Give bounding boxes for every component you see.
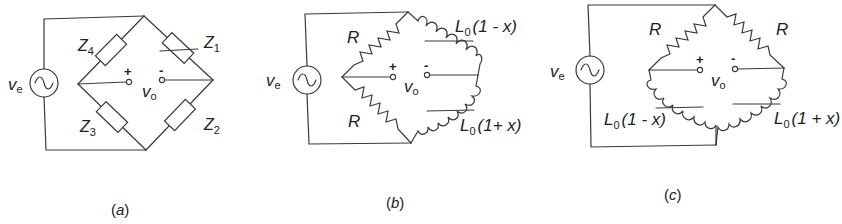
resistor-r-right xyxy=(715,5,784,68)
inductor-lower-right xyxy=(716,68,786,145)
plus-sign: + xyxy=(124,64,132,79)
caption-b: (b) xyxy=(386,194,404,211)
impedance-z4 xyxy=(95,34,126,65)
label-l-right: L0(1 + x) xyxy=(774,109,840,130)
source-wire-top xyxy=(44,16,144,69)
plus-sign: + xyxy=(696,52,704,67)
output-label: vo xyxy=(142,82,157,102)
label-l-left: L0(1 - x) xyxy=(604,110,666,131)
label-z4: Z4 xyxy=(77,37,94,57)
core-line-left xyxy=(656,107,703,108)
minus-sign: - xyxy=(731,51,735,66)
impedance-z2 xyxy=(165,99,196,130)
label-l-lower: L0(1+ x) xyxy=(460,116,522,137)
output-terminal-plus xyxy=(390,74,395,79)
label-r-left: R xyxy=(649,20,661,39)
label-z3: Z3 xyxy=(79,118,96,138)
minus-sign: - xyxy=(159,63,163,78)
label-r-lower: R xyxy=(348,112,360,131)
output-terminal-minus xyxy=(159,77,164,82)
panel-a: + - ve vo Z4 Z1 Z3 Z2 (a) xyxy=(8,16,220,218)
label-z2: Z2 xyxy=(203,116,220,136)
output-terminal-minus xyxy=(732,66,737,71)
output-terminal-minus xyxy=(424,72,429,77)
panel-b: + - ve vo R R L0(1 - x) L0(1+ x) (b) xyxy=(266,12,522,211)
ac-source-icon xyxy=(293,66,321,94)
plus-sign: + xyxy=(389,59,397,74)
output-label: vo xyxy=(404,77,419,97)
output-label: vo xyxy=(711,71,726,91)
output-terminal-plus xyxy=(126,79,131,84)
source-wire-bottom xyxy=(44,97,146,150)
ac-source-icon xyxy=(576,56,604,84)
label-l-upper: L0(1 - x) xyxy=(455,17,517,38)
ac-source-icon xyxy=(30,69,58,97)
minus-sign: - xyxy=(424,58,428,73)
label-z1: Z1 xyxy=(203,34,220,54)
impedance-z1 xyxy=(162,33,193,64)
caption-a: (a) xyxy=(111,201,129,218)
source-label: ve xyxy=(8,75,23,95)
panel-c: + - ve vo R R L0(1 - x) L0(1 + x) (c) xyxy=(550,5,840,203)
source-label: ve xyxy=(550,62,565,82)
impedance-z3 xyxy=(96,102,127,133)
source-label: ve xyxy=(266,71,281,91)
core-line-lower xyxy=(427,110,474,111)
caption-c: (c) xyxy=(664,186,682,203)
label-r-right: R xyxy=(776,20,788,39)
output-terminal-plus xyxy=(697,67,702,72)
label-r-upper: R xyxy=(347,28,359,47)
resistor-r-lower xyxy=(342,77,411,143)
bridge-circuits-figure: + - ve vo Z4 Z1 Z3 Z2 (a) + - ve xyxy=(0,0,842,224)
inductor-upper xyxy=(408,12,482,75)
